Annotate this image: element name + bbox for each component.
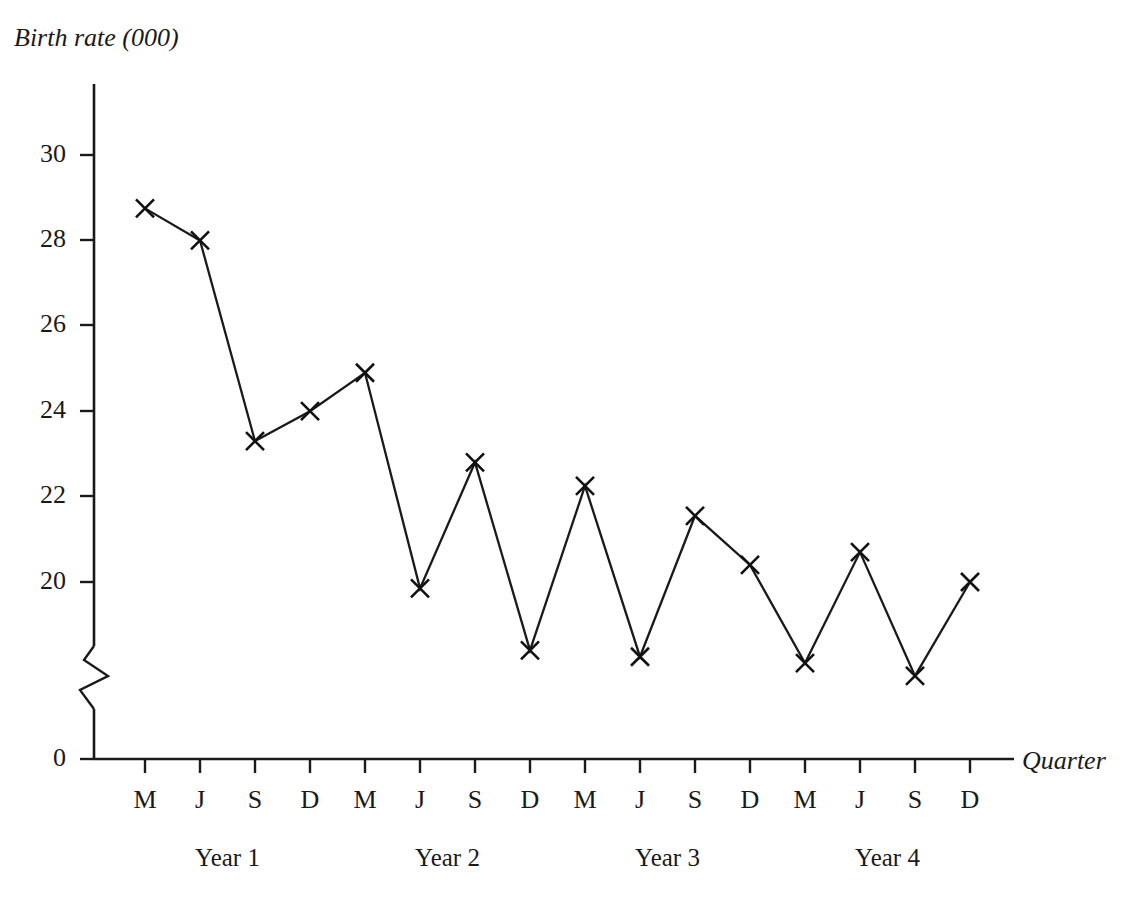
data-point-marker — [631, 648, 649, 666]
birth-rate-line-chart: Birth rate (000) 30 28 26 24 — [0, 0, 1132, 909]
x-tick-label: J — [635, 785, 645, 814]
data-point-marker — [961, 573, 979, 591]
x-tick-label: S — [248, 785, 262, 814]
data-point-marker — [301, 402, 319, 420]
data-point-marker — [411, 579, 429, 597]
y-axis-title: Birth rate (000) — [14, 23, 179, 52]
y-axis-label: 24 — [40, 395, 66, 424]
data-point-marker — [906, 667, 924, 685]
y-axis-label: 22 — [40, 480, 66, 509]
birth-rate-series-line — [145, 208, 970, 676]
data-point-marker — [191, 231, 209, 249]
y-axis-label: 0 — [53, 743, 66, 772]
x-tick-label: M — [793, 785, 816, 814]
chart-canvas: Birth rate (000) 30 28 26 24 — [0, 0, 1132, 909]
y-axis-label: 20 — [40, 566, 66, 595]
x-tick-label: D — [961, 785, 980, 814]
x-tick-label: J — [855, 785, 865, 814]
year-group-label: Year 4 — [855, 844, 920, 871]
x-tick-label: D — [741, 785, 760, 814]
x-tick-label: J — [415, 785, 425, 814]
data-point-marker — [686, 507, 704, 525]
x-tick-label: M — [133, 785, 156, 814]
birth-rate-series-markers — [136, 199, 979, 685]
x-axis-title: Quarter — [1022, 746, 1107, 775]
x-tick-label: J — [195, 785, 205, 814]
year-group-label: Year 1 — [195, 844, 260, 871]
y-axis-labels: 30 28 26 24 22 20 0 — [40, 139, 66, 772]
data-point-marker — [741, 556, 759, 574]
y-axis-label: 28 — [40, 224, 66, 253]
x-tick-label: S — [688, 785, 702, 814]
data-point-marker — [851, 543, 869, 561]
x-tick-label: D — [301, 785, 320, 814]
data-point-marker — [576, 477, 594, 495]
data-point-marker — [796, 654, 814, 672]
data-point-marker — [246, 432, 264, 450]
year-group-labels: Year 1Year 2Year 3Year 4 — [195, 844, 920, 871]
x-axis-ticks — [145, 759, 970, 773]
y-axis-label: 30 — [40, 139, 66, 168]
x-tick-label: S — [468, 785, 482, 814]
data-point-marker — [521, 641, 539, 659]
x-tick-label: D — [521, 785, 540, 814]
data-point-marker — [466, 453, 484, 471]
y-axis-label: 26 — [40, 309, 66, 338]
y-axis-ticks — [80, 155, 94, 759]
data-point-marker — [356, 364, 374, 382]
year-group-label: Year 3 — [635, 844, 700, 871]
axis-lines — [94, 84, 1014, 760]
x-axis-tick-labels: MJSDMJSDMJSDMJSD — [133, 785, 979, 814]
y-axis-break-icon — [80, 646, 108, 709]
year-group-label: Year 2 — [415, 844, 480, 871]
data-point-marker — [136, 199, 154, 217]
x-tick-label: M — [573, 785, 596, 814]
x-tick-label: S — [908, 785, 922, 814]
x-tick-label: M — [353, 785, 376, 814]
